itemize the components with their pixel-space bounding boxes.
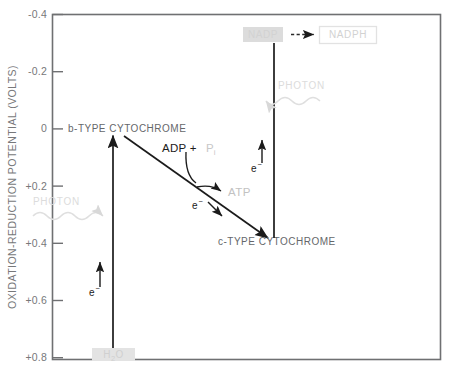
y-tick-label-5: +0.6	[25, 294, 47, 306]
b-type-cytochrome-label: b-TYPE CYTOCHROME	[68, 123, 186, 134]
figure-canvas: -0.4 -0.2 0 +0.2 +0.4 +0.6 +0.8 OXIDATIO…	[0, 0, 453, 378]
electron-superscript-left: −	[96, 284, 101, 293]
electron-label-left: e	[89, 287, 95, 298]
electron-label-chain: e	[192, 200, 198, 211]
photon-left-label: PHOTON	[33, 196, 80, 207]
photon-right-label: PHOTON	[278, 80, 325, 91]
z-scheme-diagram: -0.4 -0.2 0 +0.2 +0.4 +0.6 +0.8 OXIDATIO…	[0, 0, 453, 378]
y-tick-label-3: +0.2	[25, 180, 47, 192]
electron-label-right: e	[251, 163, 257, 174]
y-axis-title: OXIDATION-REDUCTION POTENTIAL (VOLTS)	[6, 65, 18, 309]
c-type-cytochrome-label: c-TYPE CYTOCHROME	[218, 236, 336, 247]
adp-input-curve	[186, 152, 196, 183]
photon-left-wave-icon	[33, 213, 103, 220]
y-axis-ticks	[53, 15, 64, 358]
electron-superscript-right: −	[258, 160, 263, 169]
adp-label: ADP +	[162, 142, 197, 154]
nadph-label: NADPH	[329, 29, 367, 40]
y-tick-label-0: -0.4	[28, 8, 47, 20]
y-tick-label-2: 0	[41, 122, 47, 134]
electron-superscript-chain: −	[199, 197, 204, 206]
atp-label: ATP	[228, 186, 251, 198]
y-tick-label-6: +0.8	[25, 351, 47, 363]
y-tick-label-4: +0.4	[25, 237, 47, 249]
nadp-label: NADP	[248, 29, 278, 40]
y-tick-label-1: -0.2	[28, 65, 47, 77]
pi-label: Pi	[206, 142, 216, 157]
